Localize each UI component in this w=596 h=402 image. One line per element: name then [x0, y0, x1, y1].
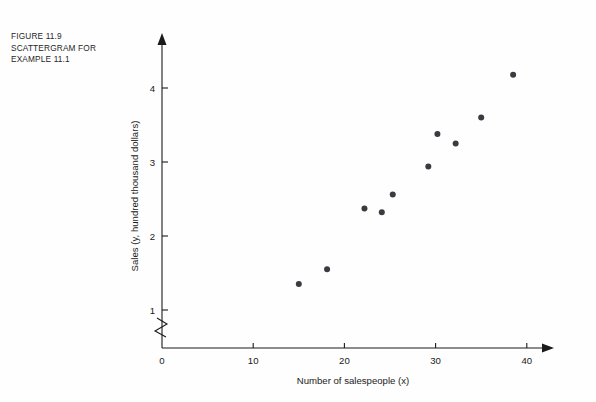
y-tick-label: 3	[150, 157, 155, 168]
x-axis-arrowhead	[542, 344, 554, 353]
y-tick-label: 1	[150, 305, 155, 316]
scatterplot: 010203040 1234 Number of salespeople (x)…	[0, 0, 596, 402]
x-tick-label: 0	[159, 355, 164, 366]
x-tick-label: 10	[248, 355, 259, 366]
y-tick-label: 4	[150, 83, 156, 94]
y-axis-arrowhead	[158, 33, 167, 45]
data-point	[379, 209, 385, 215]
y-tick-label: 2	[150, 231, 155, 242]
x-tick-label: 20	[339, 355, 350, 366]
data-point	[296, 281, 302, 287]
y-tick-group: 1234	[150, 83, 168, 316]
x-tick-label: 40	[521, 355, 532, 366]
y-axis-group	[155, 33, 167, 348]
data-point	[434, 131, 440, 137]
data-point	[453, 141, 459, 147]
data-point	[324, 266, 330, 272]
y-axis-title: Sales (y, hundred thousand dollars)	[129, 121, 140, 272]
data-point	[478, 115, 484, 121]
y-axis-break-icon	[155, 318, 167, 337]
data-point	[510, 72, 516, 78]
data-point	[390, 192, 396, 198]
x-tick-label: 30	[430, 355, 441, 366]
data-point-group	[296, 72, 516, 287]
x-axis-title: Number of salespeople (x)	[297, 375, 410, 386]
x-axis-group	[162, 344, 554, 353]
data-point	[425, 163, 431, 169]
x-tick-group: 010203040	[159, 343, 532, 366]
data-point	[361, 206, 367, 212]
figure-container: FIGURE 11.9 SCATTERGRAM FOR EXAMPLE 11.1…	[0, 0, 596, 402]
